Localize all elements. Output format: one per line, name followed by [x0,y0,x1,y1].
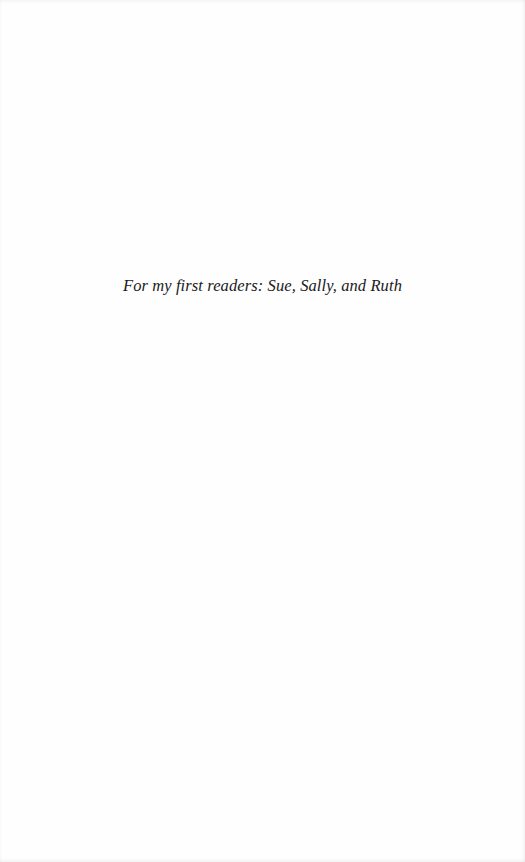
dedication-text: For my first readers: Sue, Sally, and Ru… [0,276,525,296]
book-page: For my first readers: Sue, Sally, and Ru… [0,0,525,862]
